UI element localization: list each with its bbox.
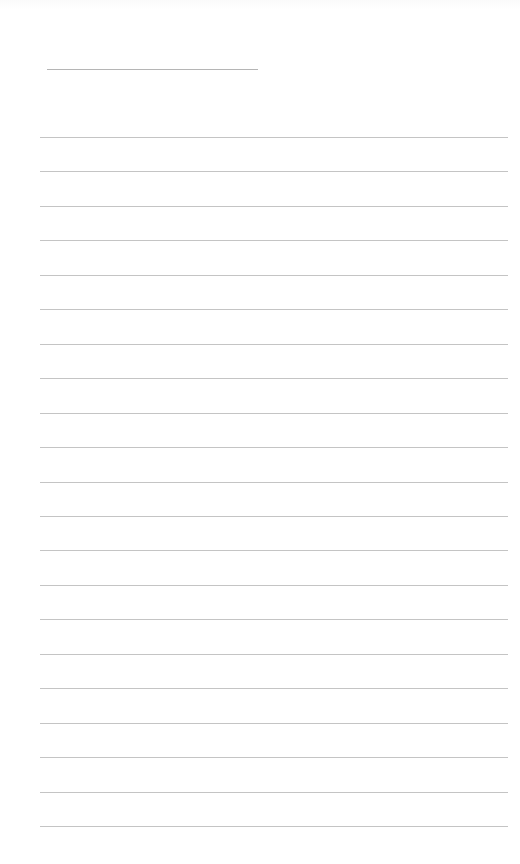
ruled-line xyxy=(40,275,508,276)
ruled-line xyxy=(40,619,508,620)
lined-page xyxy=(0,0,520,864)
ruled-line xyxy=(40,240,508,241)
ruled-line xyxy=(40,413,508,414)
ruled-line xyxy=(40,378,508,379)
ruled-line xyxy=(40,206,508,207)
ruled-line xyxy=(40,550,508,551)
ruled-line xyxy=(40,792,508,793)
ruled-line xyxy=(40,309,508,310)
ruled-line xyxy=(40,447,508,448)
ruled-line xyxy=(40,171,508,172)
ruled-line xyxy=(40,688,508,689)
ruled-line xyxy=(40,826,508,827)
ruled-line xyxy=(40,137,508,138)
scan-bleed-through xyxy=(0,0,520,10)
ruled-line xyxy=(40,654,508,655)
ruled-line xyxy=(40,482,508,483)
title-underline xyxy=(47,69,258,70)
ruled-line xyxy=(40,516,508,517)
ruled-line xyxy=(40,344,508,345)
ruled-line xyxy=(40,757,508,758)
ruled-line xyxy=(40,723,508,724)
ruled-line xyxy=(40,585,508,586)
